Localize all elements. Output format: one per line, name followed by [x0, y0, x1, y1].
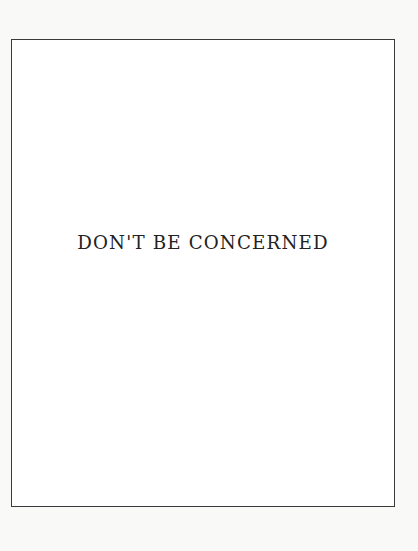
page-title: DON'T BE CONCERNED [20, 233, 387, 252]
document-page: DON'T BE CONCERNED [0, 0, 418, 551]
page-border-frame: DON'T BE CONCERNED [11, 39, 395, 507]
